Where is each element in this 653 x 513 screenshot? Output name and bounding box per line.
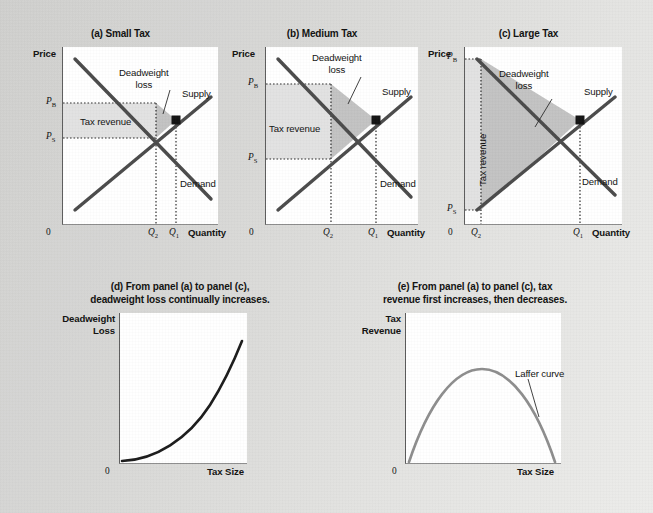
panel-d-origin-label: 0 — [105, 466, 110, 476]
panel-a-deadweight-label: Deadweightloss — [119, 67, 169, 90]
panel-e-origin-label: 0 — [392, 466, 397, 476]
panel-b-deadweight-leader — [348, 77, 361, 104]
panel-e-curve-label: Laffer curve — [515, 368, 564, 379]
panel-a-tax-revenue-label: Tax revenue — [80, 116, 131, 127]
panel-b-origin-label: 0 — [249, 227, 254, 237]
panel-e-x-axis-label: Tax Size — [517, 466, 554, 477]
panel-a-x-axis-label: Quantity — [188, 227, 226, 238]
panel-a: (a) Small Tax Price — [18, 28, 223, 258]
panel-d-x-axis-label: Tax Size — [207, 466, 244, 477]
panel-c-supply-label: Supply — [584, 86, 613, 97]
panel-a-supply-label: Supply — [182, 88, 211, 99]
panel-b-x-axis-label: Quantity — [387, 227, 425, 238]
panel-c: (c) Large Tax Price — [421, 28, 636, 258]
panel-d: (d) From panel (a) to panel (c),deadweig… — [55, 280, 305, 495]
panel-d-deadweight-curve — [122, 341, 242, 461]
panel-b-tax-revenue-label: Tax revenue — [269, 123, 320, 134]
panel-a-ps-tick: PS — [46, 131, 55, 143]
panel-e-laffer-curve — [409, 369, 555, 462]
panel-b-ps-tick: PS — [248, 152, 257, 164]
panel-b-title: (b) Medium Tax — [222, 28, 422, 41]
panel-b-deadweight-label: Deadweightloss — [312, 52, 362, 75]
panel-c-q1-tick: Q1 — [573, 227, 583, 239]
panel-a-q2-tick: Q2 — [148, 227, 158, 239]
panel-b-tax-revenue-region — [266, 84, 331, 159]
panel-a-y-axis-label: Price — [33, 48, 56, 59]
panel-a-equilibrium-marker — [172, 116, 181, 125]
panel-e: (e) From panel (a) to panel (c), taxreve… — [345, 280, 605, 495]
panel-b-q2-tick: Q2 — [323, 227, 333, 239]
panel-e-title: (e) From panel (a) to panel (c), taxreve… — [345, 280, 605, 306]
panel-e-plot-area — [405, 313, 561, 464]
tax-deadweight-loss-figure: (a) Small Tax Price — [0, 0, 653, 513]
panel-e-svg — [406, 313, 561, 463]
panel-b-supply-label: Supply — [382, 86, 411, 97]
panel-c-demand-label: Demand — [582, 176, 618, 187]
panel-a-pb-tick: PB — [46, 96, 56, 108]
panel-b-q1-tick: Q1 — [368, 227, 378, 239]
panel-d-y-axis-label: DeadweightLoss — [57, 313, 115, 337]
panel-b-pb-tick: PB — [248, 77, 258, 89]
panel-b: (b) Medium Tax Price — [222, 28, 422, 258]
panel-a-q1-tick: Q1 — [169, 227, 179, 239]
panel-a-origin-label: 0 — [46, 227, 51, 237]
panel-a-demand-label: Demand — [180, 178, 216, 189]
panel-b-demand-label: Demand — [380, 178, 416, 189]
panel-c-origin-label: 0 — [448, 227, 453, 237]
panel-c-pb-tick: PB — [447, 51, 457, 63]
panel-e-y-axis-label: TaxRevenue — [343, 313, 401, 337]
panel-c-equilibrium-marker — [576, 116, 585, 125]
panel-c-deadweight-label: Deadweightloss — [499, 68, 549, 91]
panel-b-y-axis-label: Price — [232, 48, 255, 59]
panel-b-equilibrium-marker — [372, 116, 381, 125]
panel-c-q2-tick: Q2 — [471, 227, 481, 239]
panel-c-ps-tick: PS — [447, 203, 456, 215]
panel-a-deadweight-leader — [163, 90, 170, 114]
panel-d-svg — [120, 313, 247, 463]
panel-c-title: (c) Large Tax — [421, 28, 636, 41]
panel-d-title: (d) From panel (a) to panel (c),deadweig… — [55, 280, 305, 306]
panel-d-plot-area — [119, 313, 247, 464]
panel-a-title: (a) Small Tax — [18, 28, 223, 41]
panel-c-x-axis-label: Quantity — [592, 227, 630, 238]
panel-c-tax-revenue-label: Tax revenue — [477, 134, 488, 186]
